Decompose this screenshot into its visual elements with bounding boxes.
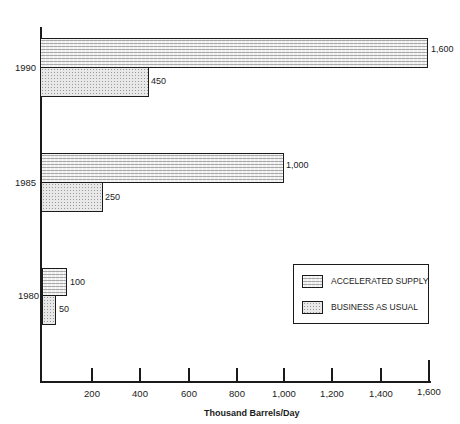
value-label: 1,000 [286,160,309,170]
x-tick-label: 200 [84,388,100,399]
bar-accelerated-1990 [40,38,428,68]
x-tick [283,368,285,382]
legend-label-business: BUSINESS AS USUAL [331,302,418,312]
bar-business-1990 [40,67,149,97]
x-tick-label: 400 [132,388,148,399]
x-tick-label: 1,000 [272,388,296,399]
category-label-1990: 1990 [15,62,36,73]
category-label-1980: 1980 [18,290,39,301]
value-label: 450 [151,76,166,86]
x-tick-label: 1,600 [417,386,441,397]
value-label: 1,600 [431,44,454,54]
x-tick [188,368,190,382]
value-label: 250 [105,192,120,202]
x-tick-label: 1,200 [320,388,344,399]
legend-swatch-business [302,301,323,314]
value-label: 50 [59,304,69,314]
x-tick [331,368,333,382]
x-tick-label: 1,400 [369,388,393,399]
x-tick [428,360,430,382]
value-label: 100 [70,277,85,287]
x-tick [236,368,238,382]
bar-business-1980 [42,295,56,325]
bar-accelerated-1980 [42,268,67,296]
x-tick-label: 800 [229,388,245,399]
category-label-1985: 1985 [15,177,36,188]
x-tick [380,368,382,382]
x-tick-label: 600 [181,388,197,399]
legend-swatch-accelerated [302,275,323,288]
legend: ACCELERATED SUPPLY BUSINESS AS USUAL [293,264,429,324]
x-tick [139,368,141,382]
x-tick [91,368,93,382]
bar-accelerated-1985 [41,153,284,183]
x-axis-title: Thousand Barrels/Day [204,408,300,418]
legend-label-accelerated: ACCELERATED SUPPLY [331,276,428,286]
bar-business-1985 [41,182,103,212]
